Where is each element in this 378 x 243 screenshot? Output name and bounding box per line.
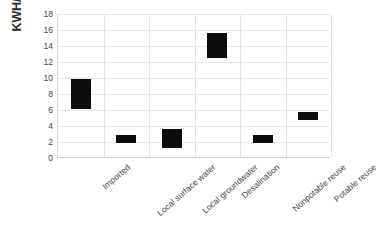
gridline-horizontal xyxy=(58,62,330,63)
gridline-horizontal xyxy=(58,30,330,31)
bar[interactable] xyxy=(298,112,318,121)
y-axis-tick-label: 4 xyxy=(33,122,53,131)
y-axis-tick-label: 0 xyxy=(33,154,53,163)
plot-area xyxy=(57,14,330,158)
y-axis-title: KWH/kgal xyxy=(6,0,28,58)
gridline-horizontal xyxy=(58,142,330,143)
y-axis-tick-label: 12 xyxy=(33,58,53,67)
gridline-horizontal xyxy=(58,110,330,111)
gridline-vertical xyxy=(104,14,105,157)
gridline-horizontal xyxy=(58,78,330,79)
gridline-horizontal xyxy=(58,126,330,127)
y-axis-tick-label: 8 xyxy=(33,90,53,99)
gridline-horizontal xyxy=(58,94,330,95)
bar[interactable] xyxy=(162,129,182,147)
gridline-vertical xyxy=(331,14,332,157)
y-axis-tick-label: 18 xyxy=(33,10,53,19)
gridline-vertical xyxy=(286,14,287,157)
gridline-horizontal xyxy=(58,14,330,15)
bar[interactable] xyxy=(207,33,227,58)
gridline-vertical xyxy=(149,14,150,157)
bar[interactable] xyxy=(116,135,136,143)
gridline-vertical xyxy=(195,14,196,157)
y-axis-tick-label-group: 024681012141618 xyxy=(33,14,53,158)
gridline-horizontal xyxy=(58,46,330,47)
gridline-vertical xyxy=(240,14,241,157)
y-axis-tick-label: 2 xyxy=(33,138,53,147)
bar[interactable] xyxy=(71,79,91,109)
y-axis-tick-label: 16 xyxy=(33,26,53,35)
x-axis-tick-label-group: ImportedLocal surface waterLocal groundw… xyxy=(57,158,330,243)
x-axis-tick-label: Nonpotable reuse xyxy=(290,162,347,214)
y-axis-tick-label: 6 xyxy=(33,106,53,115)
y-axis-tick-label: 14 xyxy=(33,42,53,51)
y-axis-tick-label: 10 xyxy=(33,74,53,83)
x-axis-tick-label: Imported xyxy=(100,162,132,192)
bar[interactable] xyxy=(253,135,273,143)
